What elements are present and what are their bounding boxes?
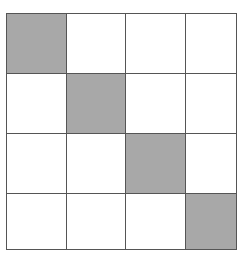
grid-cell-r4c2[interactable] — [67, 194, 126, 250]
grid-matrix — [6, 13, 237, 250]
grid-row — [7, 194, 237, 250]
grid-row — [7, 134, 237, 194]
grid-cell-r3c1[interactable] — [7, 134, 67, 194]
grid-cell-r4c4[interactable] — [186, 194, 237, 250]
grid-body — [7, 14, 237, 250]
grid-cell-r4c3[interactable] — [126, 194, 186, 250]
grid-cell-r1c1[interactable] — [7, 14, 67, 74]
grid-cell-r2c2[interactable] — [67, 74, 126, 134]
grid-cell-r1c2[interactable] — [67, 14, 126, 74]
grid-cell-r2c3[interactable] — [126, 74, 186, 134]
grid-cell-r2c4[interactable] — [186, 74, 237, 134]
grid-row — [7, 74, 237, 134]
grid-row — [7, 14, 237, 74]
grid-cell-r3c2[interactable] — [67, 134, 126, 194]
grid-cell-r1c3[interactable] — [126, 14, 186, 74]
grid-cell-r1c4[interactable] — [186, 14, 237, 74]
grid-cell-r2c1[interactable] — [7, 74, 67, 134]
grid-cell-r3c3[interactable] — [126, 134, 186, 194]
grid-cell-r4c1[interactable] — [7, 194, 67, 250]
diagram-canvas — [0, 0, 239, 253]
grid-cell-r3c4[interactable] — [186, 134, 237, 194]
